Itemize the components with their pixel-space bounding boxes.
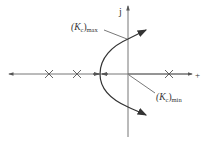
locus-branch-upper — [100, 30, 146, 74]
locus-branch-lower — [100, 74, 146, 115]
kc-max-label: (Kc)max — [71, 22, 99, 33]
kc-min-label: (Kc)min — [156, 92, 182, 103]
root-locus-diagram: + j (Kc)max (Kc)min — [0, 0, 204, 147]
kc-min-leader — [129, 75, 155, 93]
kc-max-leader — [104, 30, 127, 39]
real-axis-label: + — [195, 70, 200, 80]
imag-axis-label: j — [118, 6, 122, 17]
